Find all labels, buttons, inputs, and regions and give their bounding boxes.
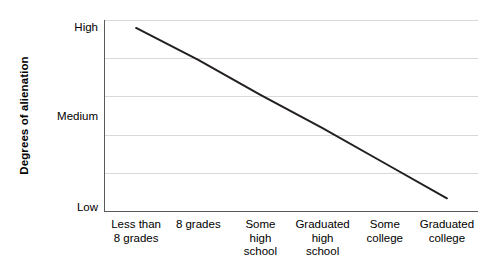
x-tick-label-line: Less than — [106, 218, 166, 232]
x-tick-label-line: high — [293, 232, 353, 246]
x-tick-label: Less than8 grades — [105, 218, 167, 274]
y-tick-label-low: Low — [0, 201, 98, 214]
x-tick-label-line: Some — [230, 218, 290, 232]
x-tick-label-line: school — [293, 245, 353, 259]
x-tick-label: Somehighschool — [229, 218, 291, 274]
x-tick-label-line: Some — [355, 218, 415, 232]
x-tick-label: Graduatedhighschool — [292, 218, 354, 274]
x-tick-label-line: 8 grades — [106, 232, 166, 246]
x-tick-label-line: school — [230, 245, 290, 259]
x-tick-label: 8 grades — [167, 218, 229, 274]
chart-figure: Degrees of alienation High Medium Low Le… — [0, 0, 498, 280]
x-tick-label-line: 8 grades — [168, 218, 228, 232]
x-axis-tick-labels: Less than8 grades8 gradesSomehighschoolG… — [105, 218, 478, 274]
x-tick-label-line: Graduated — [417, 218, 477, 232]
x-tick-label-line: Graduated — [293, 218, 353, 232]
x-tick-label-line: college — [417, 232, 477, 246]
series-polyline — [136, 28, 447, 198]
y-tick-label-medium: Medium — [0, 110, 98, 123]
x-tick-label: Somecollege — [354, 218, 416, 274]
x-axis-line — [104, 211, 478, 212]
y-tick-label-high: High — [0, 21, 98, 34]
x-tick-label: Graduatedcollege — [416, 218, 478, 274]
series-line — [105, 20, 478, 211]
x-tick-label-line: high — [230, 232, 290, 246]
x-tick-label-line: college — [355, 232, 415, 246]
plot-area — [105, 20, 478, 211]
y-axis-tick-labels: High Medium Low — [0, 0, 98, 280]
